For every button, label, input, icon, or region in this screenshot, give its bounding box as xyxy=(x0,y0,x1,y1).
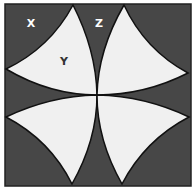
label-z: Z xyxy=(95,17,103,30)
quatrefoil-diagram: X Z Y xyxy=(0,0,195,192)
label-x: X xyxy=(27,17,36,30)
label-y: Y xyxy=(59,55,69,68)
